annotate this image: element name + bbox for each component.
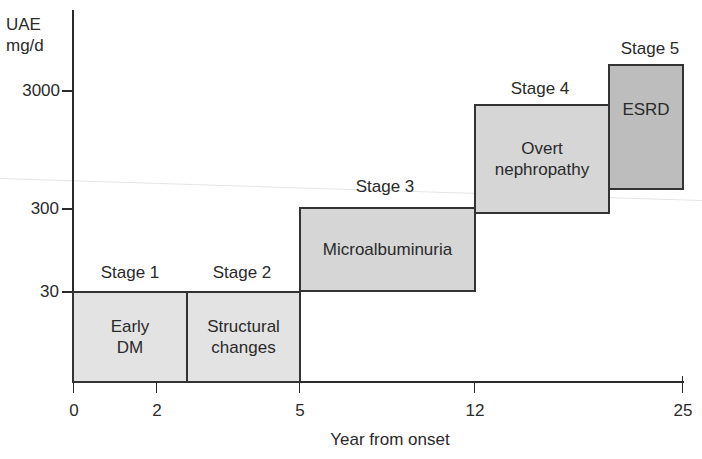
stage-3-label: Microalbuminuria — [323, 239, 452, 260]
stage-1-label-line1: Early — [111, 316, 150, 337]
stage-4-label-line2: nephropathy — [495, 159, 590, 180]
stage-1-box: Early DM — [72, 291, 188, 383]
x-axis-title: Year from onset — [300, 430, 480, 450]
x-tick-25 — [682, 376, 683, 393]
y-tick-label-300: 300 — [0, 199, 59, 219]
y-tick-3000 — [62, 90, 73, 92]
x-tick-label-12: 12 — [455, 401, 495, 421]
y-axis-title: UAE mg/d — [6, 14, 44, 56]
stage-2-label-line2: changes — [207, 337, 280, 358]
stage-2-label-line1: Structural — [207, 316, 280, 337]
x-tick-5 — [299, 382, 300, 393]
x-tick-label-2: 2 — [137, 401, 177, 421]
y-axis-title-line2: mg/d — [6, 35, 44, 56]
stage-3-heading: Stage 3 — [335, 177, 435, 197]
stage-1-heading: Stage 1 — [80, 263, 180, 283]
x-tick-label-25: 25 — [663, 401, 702, 421]
stage-2-box: Structural changes — [186, 291, 301, 383]
y-tick-label-3000: 3000 — [0, 81, 60, 101]
stage-5-box: ESRD — [608, 64, 684, 190]
stage-3-box: Microalbuminuria — [299, 207, 476, 292]
stage-5-heading: Stage 5 — [605, 39, 695, 59]
x-tick-label-5: 5 — [280, 401, 320, 421]
stage-2-heading: Stage 2 — [192, 263, 292, 283]
x-tick-2 — [156, 382, 157, 393]
x-tick-0 — [73, 382, 74, 393]
stage-4-heading: Stage 4 — [490, 79, 590, 99]
y-tick-label-30: 30 — [0, 282, 59, 302]
stage-5-label: ESRD — [622, 99, 669, 120]
stage-4-label-line1: Overt — [495, 138, 590, 159]
x-tick-label-0: 0 — [54, 401, 94, 421]
y-tick-300 — [62, 208, 73, 210]
stage-4-box: Overt nephropathy — [474, 104, 610, 214]
x-tick-12 — [474, 382, 475, 393]
y-axis-title-line1: UAE — [6, 14, 44, 35]
stage-1-label-line2: DM — [111, 337, 150, 358]
